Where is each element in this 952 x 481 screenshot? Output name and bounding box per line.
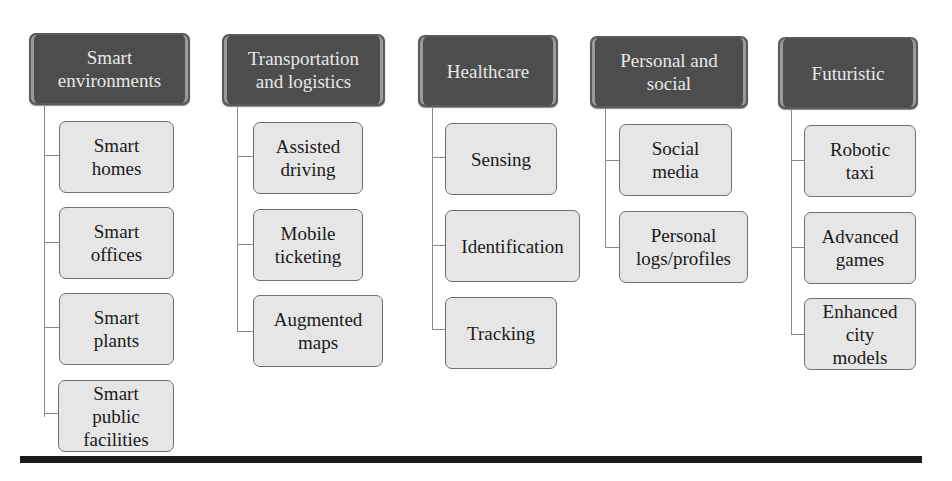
connector-trunk [432,107,433,329]
category-header-personal-social: Personal and social [590,36,748,108]
item-smart-public-facilities: Smart public facilities [58,380,174,452]
connector-branch [237,156,253,157]
connector-branch [432,245,446,246]
item-advanced-games: Advanced games [804,212,916,284]
connector-trunk [44,105,45,417]
connector-branch [237,244,253,245]
connector-branch [44,155,60,156]
item-smart-offices: Smart offices [59,207,174,279]
connector-branch [44,327,60,328]
item-augmented-maps: Augmented maps [253,295,383,367]
item-personal-logs-profiles: Personal logs/profiles [619,211,748,283]
item-smart-homes: Smart homes [59,121,174,193]
category-header-healthcare: Healthcare [418,35,558,107]
item-identification: Identification [445,210,580,282]
connector-branch [432,329,446,330]
item-sensing: Sensing [445,123,557,195]
connector-branch [44,242,60,243]
category-header-transportation-logistics: Transportation and logistics [222,34,385,106]
item-enhanced-city-models: Enhanced city models [804,298,916,370]
connector-trunk [791,109,792,334]
connector-branch [432,157,446,158]
connector-branch [791,247,805,248]
connector-branch [237,331,253,332]
connector-trunk [237,106,238,331]
item-tracking: Tracking [445,297,557,369]
connector-branch [605,160,620,161]
connector-trunk [605,108,606,247]
bottom-divider [20,456,922,463]
item-assisted-driving: Assisted driving [253,122,363,194]
item-smart-plants: Smart plants [59,293,174,365]
connector-branch [791,160,805,161]
category-header-futuristic: Futuristic [778,37,918,109]
connector-branch [791,334,805,335]
category-header-smart-environments: Smart environments [29,33,190,105]
item-mobile-ticketing: Mobile ticketing [253,209,363,281]
item-social-media: Social media [619,124,732,196]
item-robotic-taxi: Robotic taxi [804,125,916,197]
connector-branch [605,247,620,248]
